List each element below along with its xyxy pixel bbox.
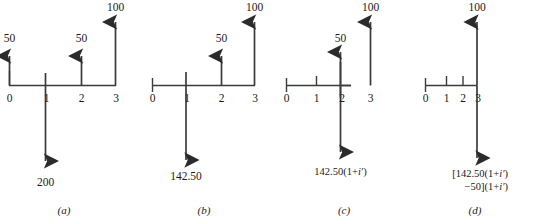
panel-a-flow-label-t3: 100 (107, 1, 125, 13)
panel-a-tick-label-0: 0 (7, 92, 13, 104)
panel-b-flow-label-t1: 142.50 (170, 170, 202, 182)
panel-b-tick-label-3: 3 (252, 92, 258, 104)
panel-a-tick-label-3: 3 (113, 92, 119, 104)
panel-d-l1-prefix: [142.50(1+ (452, 168, 499, 180)
panel-d-flow-label-t3-down-line1: [142.50(1+i′) (452, 168, 508, 180)
panel-b-flow-label-t3: 100 (246, 1, 264, 13)
cash-flow-figure: 50 200 50 100 0 1 2 3 (a) (0, 0, 555, 224)
panel-d-flow-label-t3-down-line2: −50](1+i′) (465, 181, 509, 193)
panel-a-svg: 50 200 50 100 0 1 2 3 (a) (0, 0, 140, 224)
panel-a-flow-label-t2: 50 (76, 32, 88, 44)
panel-d-tick-label-1: 1 (444, 92, 450, 104)
panel-b-tick-label-2: 2 (219, 92, 225, 104)
panel-a-tick-label-2: 2 (79, 92, 85, 104)
panel-d-flow-label-t3-up: 100 (468, 1, 486, 13)
panel-c-flow-label-t3: 100 (362, 1, 380, 13)
cash-flow-panel-c: 142.50(1+i′) 50 100 0 1 2 3 (c) (280, 0, 420, 224)
panel-b-flow-label-t2: 50 (216, 32, 228, 44)
panel-c-svg: 142.50(1+i′) 50 100 0 1 2 3 (c) (280, 0, 420, 224)
panel-b-caption: (b) (198, 204, 211, 217)
panel-c-flow-label-t2-prefix: 142.50(1+ (314, 166, 358, 178)
panel-d-tick-label-3: 3 (475, 92, 481, 104)
panel-d-l1-suffix: ) (505, 168, 509, 180)
panel-c-tick-label-0: 0 (284, 92, 290, 104)
panel-b-svg: 142.50 50 100 0 1 2 3 (b) (140, 0, 280, 224)
panel-a-caption: (a) (58, 204, 71, 217)
cash-flow-panel-b: 142.50 50 100 0 1 2 3 (b) (140, 0, 280, 224)
panel-c-tick-label-3: 3 (368, 92, 374, 104)
panel-b-tick-label-0: 0 (150, 92, 156, 104)
panel-c-tick-label-1: 1 (314, 92, 320, 104)
panel-c-flow-label-t2-up: 50 (335, 32, 347, 44)
panel-a-flow-label-t0: 50 (4, 32, 16, 44)
panel-d-tick-label-0: 0 (423, 92, 429, 104)
panel-d-caption: (d) (469, 204, 482, 217)
panel-d-svg: 100 [142.50(1+i′) −50](1+i′) 0 1 2 3 (d) (420, 0, 555, 224)
panel-c-flow-label-t2-down: 142.50(1+i′) (314, 166, 367, 178)
panel-c-caption: (c) (338, 204, 351, 217)
panel-b-tick-label-1: 1 (184, 92, 190, 104)
cash-flow-panel-a: 50 200 50 100 0 1 2 3 (a) (0, 0, 140, 224)
panel-d-tick-label-2: 2 (460, 92, 466, 104)
panel-c-flow-label-t2-suffix: ) (363, 166, 367, 178)
panel-c-tick-label-2: 2 (339, 92, 345, 104)
panel-a-tick-label-1: 1 (44, 92, 50, 104)
panel-d-l2-suffix: ) (505, 181, 509, 193)
panel-d-l2-prefix: −50](1+ (465, 181, 500, 193)
panel-a-flow-label-t1: 200 (37, 176, 55, 188)
cash-flow-panel-d: 100 [142.50(1+i′) −50](1+i′) 0 1 2 3 (d) (420, 0, 555, 224)
